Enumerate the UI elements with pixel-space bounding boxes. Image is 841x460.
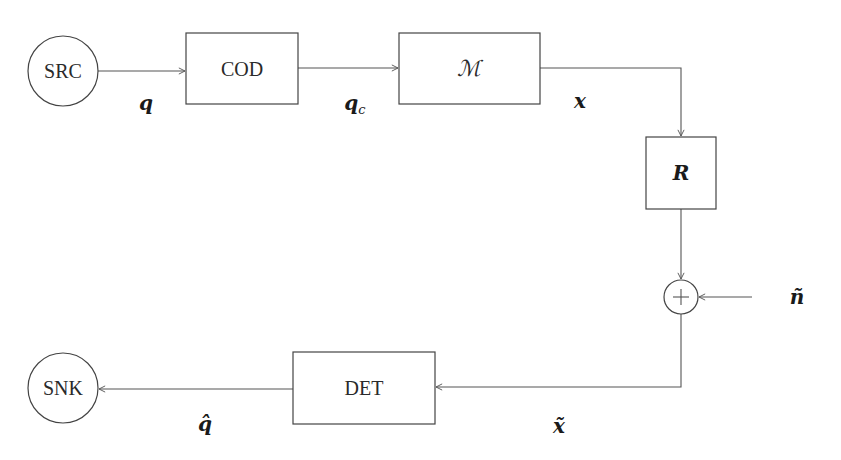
node-cod-label: COD xyxy=(221,58,263,80)
block-diagram: SRC COD ℳ R DET SNK q qc x ñ x̃ q̂ xyxy=(0,0,841,460)
node-src-label: SRC xyxy=(44,60,82,82)
node-r-label: R xyxy=(672,161,690,185)
node-cod: COD xyxy=(186,33,298,104)
signal-qc-sub: c xyxy=(358,102,366,117)
signal-n-tilde-label: ñ xyxy=(790,285,805,309)
signal-q-label: q xyxy=(139,91,153,115)
signal-x-tilde-label: x̃ xyxy=(552,414,566,438)
node-r: R xyxy=(646,137,716,209)
node-modulator: ℳ xyxy=(399,33,540,104)
edge-sum-det xyxy=(436,314,681,387)
signal-qc-base: q xyxy=(344,91,358,115)
node-sum xyxy=(664,280,698,314)
signal-x-label: x xyxy=(573,89,587,113)
edge-mod-r xyxy=(540,68,681,136)
node-src: SRC xyxy=(28,36,98,106)
node-snk-label: SNK xyxy=(43,377,84,399)
node-det: DET xyxy=(293,352,435,424)
signal-q-hat-label: q̂ xyxy=(198,412,212,436)
node-modulator-label: ℳ xyxy=(457,56,484,81)
signal-qc-label: qc xyxy=(344,91,366,117)
node-det-label: DET xyxy=(345,377,384,399)
node-snk: SNK xyxy=(28,353,98,423)
